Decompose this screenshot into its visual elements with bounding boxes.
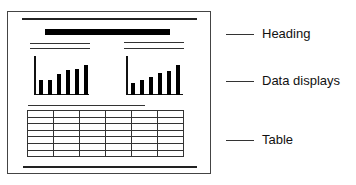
table-cell bbox=[54, 150, 80, 157]
heading-bar bbox=[45, 29, 170, 35]
table-cell bbox=[106, 111, 132, 118]
bar bbox=[48, 80, 52, 95]
table-cell bbox=[132, 143, 158, 150]
table-cell bbox=[54, 143, 80, 150]
label-data-displays: Data displays bbox=[262, 74, 340, 88]
table-cell bbox=[28, 111, 54, 118]
bar bbox=[176, 65, 180, 95]
chart-right-title-line bbox=[124, 42, 184, 43]
bar bbox=[140, 80, 144, 95]
table-cell bbox=[158, 150, 184, 157]
table-cell bbox=[80, 111, 106, 118]
table-cell bbox=[132, 124, 158, 131]
bar bbox=[131, 83, 135, 95]
table-caption-line bbox=[28, 105, 145, 106]
bar bbox=[57, 74, 61, 95]
table-cell bbox=[158, 111, 184, 118]
table-row bbox=[28, 143, 184, 150]
leader-line-table bbox=[226, 140, 254, 141]
table-cell bbox=[54, 111, 80, 118]
bar bbox=[167, 71, 171, 95]
table-cell bbox=[106, 150, 132, 157]
chart-left-subtitle-line bbox=[30, 48, 90, 49]
table-cell bbox=[106, 124, 132, 131]
table-cell bbox=[54, 117, 80, 124]
label-heading: Heading bbox=[262, 27, 310, 41]
bar bbox=[84, 65, 88, 95]
table-cell bbox=[54, 124, 80, 131]
table-row bbox=[28, 150, 184, 157]
table-row bbox=[28, 124, 184, 131]
table-cell bbox=[80, 124, 106, 131]
leader-line-heading bbox=[226, 34, 254, 35]
bottom-rule bbox=[23, 166, 197, 168]
table-cell bbox=[80, 130, 106, 137]
y-axis bbox=[34, 56, 36, 95]
bar-chart-left bbox=[34, 56, 90, 95]
bar bbox=[149, 77, 153, 95]
leader-line-data-displays bbox=[226, 81, 254, 82]
table-cell bbox=[132, 150, 158, 157]
table-cell bbox=[28, 143, 54, 150]
table-cell bbox=[106, 117, 132, 124]
bar bbox=[66, 70, 70, 95]
table-cell bbox=[158, 130, 184, 137]
table-cell bbox=[132, 117, 158, 124]
table-cell bbox=[80, 143, 106, 150]
chart-left-title-line bbox=[30, 43, 90, 44]
table-row bbox=[28, 137, 184, 144]
table-cell bbox=[54, 137, 80, 144]
table-grid bbox=[27, 110, 184, 157]
table-cell bbox=[28, 117, 54, 124]
bar-chart-right bbox=[126, 56, 184, 95]
table-cell bbox=[132, 137, 158, 144]
bar bbox=[75, 69, 79, 95]
table-cell bbox=[28, 124, 54, 131]
table-cell bbox=[132, 130, 158, 137]
table-cell bbox=[28, 130, 54, 137]
table-cell bbox=[80, 150, 106, 157]
table-row bbox=[28, 130, 184, 137]
table-cell bbox=[158, 137, 184, 144]
y-axis bbox=[126, 56, 128, 95]
table-cell bbox=[158, 117, 184, 124]
table-cell bbox=[28, 137, 54, 144]
table-cell bbox=[80, 137, 106, 144]
table-cell bbox=[106, 130, 132, 137]
table-cell bbox=[158, 124, 184, 131]
chart-right-subtitle-line bbox=[124, 48, 184, 49]
table-row bbox=[28, 111, 184, 118]
table-cell bbox=[80, 117, 106, 124]
bar bbox=[39, 80, 43, 95]
table-cell bbox=[158, 143, 184, 150]
bar bbox=[158, 73, 162, 95]
table-cell bbox=[106, 143, 132, 150]
top-rule bbox=[22, 18, 197, 20]
table-cell bbox=[54, 130, 80, 137]
label-table: Table bbox=[262, 133, 293, 147]
table-cell bbox=[28, 150, 54, 157]
table-row bbox=[28, 117, 184, 124]
table-cell bbox=[132, 111, 158, 118]
table-cell bbox=[106, 137, 132, 144]
